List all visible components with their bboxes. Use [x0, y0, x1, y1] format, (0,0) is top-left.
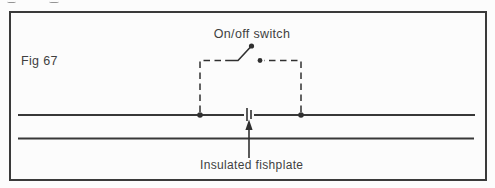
switch-lever-tip-dot — [249, 43, 254, 48]
arrow-head — [245, 120, 252, 131]
rail-junction-dot-left — [197, 112, 203, 118]
fishplate-label: Insulated fishplate — [200, 158, 300, 172]
switch-contact-dot — [258, 58, 263, 63]
switch-lever — [226, 47, 251, 61]
switch-label: On/off switch — [202, 27, 302, 41]
switch-lead-right-dashed — [264, 61, 301, 113]
figure-number-label: Fig 67 — [21, 54, 58, 68]
switch-lead-left-dashed — [200, 61, 226, 113]
figure-canvas: Fig 67 On/off switch Insulated fishplate — [0, 0, 495, 188]
rail-junction-dot-right — [298, 112, 304, 118]
